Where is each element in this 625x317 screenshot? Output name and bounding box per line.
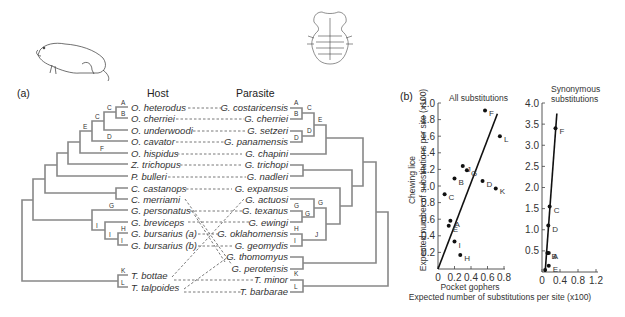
- svg-text:2.0: 2.0: [525, 182, 539, 193]
- parasite-species: G. ewingi: [248, 217, 288, 228]
- svg-text:0.6: 0.6: [421, 214, 435, 225]
- host-species: O. heterodus: [131, 102, 186, 113]
- host-species: C. castanops: [131, 183, 187, 194]
- data-point: [458, 253, 462, 257]
- svg-text:Chewing lice: Chewing lice: [407, 156, 417, 204]
- svg-text:L: L: [294, 283, 298, 290]
- parasite-species: G. costaricensis: [220, 102, 288, 113]
- data-point: [453, 240, 457, 244]
- x-axis-title-line2: Expected number of substitutions per sit…: [409, 292, 592, 302]
- host-species: O. cherriei: [131, 113, 176, 124]
- host-species: G. bursarius (a): [131, 228, 197, 239]
- data-point: [443, 192, 447, 196]
- svg-text:K: K: [294, 270, 299, 277]
- data-point: [547, 264, 551, 268]
- data-point: [448, 219, 452, 223]
- host-species: P. bulleri: [131, 171, 168, 182]
- scatter-synonymous-substitutions: Synonymous substitutions 0.51.01.52.02.5…: [525, 84, 603, 286]
- svg-text:1.0: 1.0: [421, 181, 435, 192]
- point-label: A: [553, 252, 559, 261]
- data-point: [461, 164, 465, 168]
- chart-title-line1: Synonymous: [551, 84, 600, 94]
- svg-text:G: G: [305, 210, 310, 217]
- x-axis-title-line1: Pocket gophers: [440, 282, 499, 292]
- host-phylogeny: [22, 107, 128, 287]
- host-species: G. bursarius (b): [131, 240, 197, 251]
- host-species: Z. trichopus: [130, 159, 181, 170]
- svg-text:H: H: [294, 225, 299, 232]
- svg-text:D: D: [294, 134, 299, 141]
- svg-text:0: 0: [539, 275, 545, 286]
- svg-text:C: C: [95, 113, 100, 120]
- svg-text:G: G: [109, 202, 114, 209]
- svg-text:G: G: [294, 202, 299, 209]
- parasite-node-labels: A B C D D E G G G H I J K L: [294, 99, 323, 290]
- pocket-gopher-drawing: [37, 43, 109, 81]
- data-point: [481, 179, 485, 183]
- parasite-species: G. cherriei: [244, 113, 289, 124]
- parasite-species: G. nadleri: [247, 171, 289, 182]
- point-label: K: [500, 187, 506, 196]
- parasite-phylogeny: [290, 108, 388, 292]
- data-point: [546, 224, 550, 228]
- parasite-species: T. barbarae: [240, 286, 288, 297]
- parasite-species: G. geomydis: [235, 240, 289, 251]
- host-species: C. merriami: [131, 194, 181, 205]
- svg-text:0.2: 0.2: [421, 247, 435, 258]
- svg-text:1.4: 1.4: [421, 147, 435, 158]
- point-label: I: [459, 241, 461, 250]
- parasite-species: G. texanus: [242, 205, 288, 216]
- svg-text:I: I: [294, 237, 296, 244]
- chart-title-line2: substitutions: [551, 94, 598, 104]
- point-label: H: [464, 254, 470, 263]
- host-header: Host: [147, 87, 169, 99]
- scatter-all-substitutions: All substitutions 0.20.40.60.81.01.21.41…: [421, 93, 511, 283]
- point-label: F: [489, 109, 494, 118]
- svg-text:I: I: [121, 237, 123, 244]
- data-points: FLJGBDKCAEIH: [443, 108, 509, 262]
- svg-text:F: F: [100, 145, 104, 152]
- svg-text:1.2: 1.2: [421, 164, 435, 175]
- regression-line: [438, 114, 497, 269]
- host-species: T. talpoides: [131, 282, 179, 293]
- svg-text:L: L: [121, 279, 125, 286]
- data-point: [547, 251, 551, 255]
- data-point: [453, 177, 457, 181]
- svg-text:G: G: [318, 199, 323, 206]
- point-label: C: [449, 193, 455, 202]
- svg-text:K: K: [121, 267, 126, 274]
- point-label: B: [459, 178, 464, 187]
- parasite-header: Parasite: [236, 87, 275, 99]
- host-species: G. breviceps: [131, 217, 185, 228]
- data-point: [548, 205, 552, 209]
- svg-text:I: I: [96, 222, 98, 229]
- parasite-species: G. oklahomensis: [217, 228, 288, 239]
- chart-title: All substitutions: [449, 93, 508, 103]
- data-point: [494, 186, 498, 190]
- svg-text:4.0: 4.0: [525, 98, 539, 109]
- parasite-species: G. expansus: [235, 183, 289, 194]
- point-label: E: [453, 225, 458, 234]
- point-label: G: [471, 169, 477, 178]
- svg-text:3.0: 3.0: [525, 140, 539, 151]
- data-point: [554, 126, 558, 130]
- point-label: E: [553, 265, 558, 274]
- svg-text:3.5: 3.5: [525, 119, 539, 130]
- parasite-species: G. perotensis: [232, 263, 289, 274]
- data-point: [498, 134, 502, 138]
- svg-text:E: E: [318, 116, 323, 123]
- panel-a-label: (a): [17, 87, 30, 99]
- host-species: G. personatus: [131, 205, 191, 216]
- svg-text:1.8: 1.8: [421, 114, 435, 125]
- point-label: D: [552, 225, 558, 234]
- svg-text:B: B: [121, 110, 125, 117]
- svg-text:D: D: [107, 133, 112, 140]
- parasite-species: G. trichopi: [245, 159, 289, 170]
- svg-text:A: A: [294, 99, 299, 106]
- point-label: L: [504, 135, 509, 144]
- svg-text:1.2: 1.2: [589, 275, 603, 286]
- svg-text:C: C: [107, 104, 112, 111]
- chewing-louse-drawing: [307, 12, 353, 64]
- svg-text:J: J: [315, 231, 318, 238]
- svg-text:0.5: 0.5: [525, 245, 539, 256]
